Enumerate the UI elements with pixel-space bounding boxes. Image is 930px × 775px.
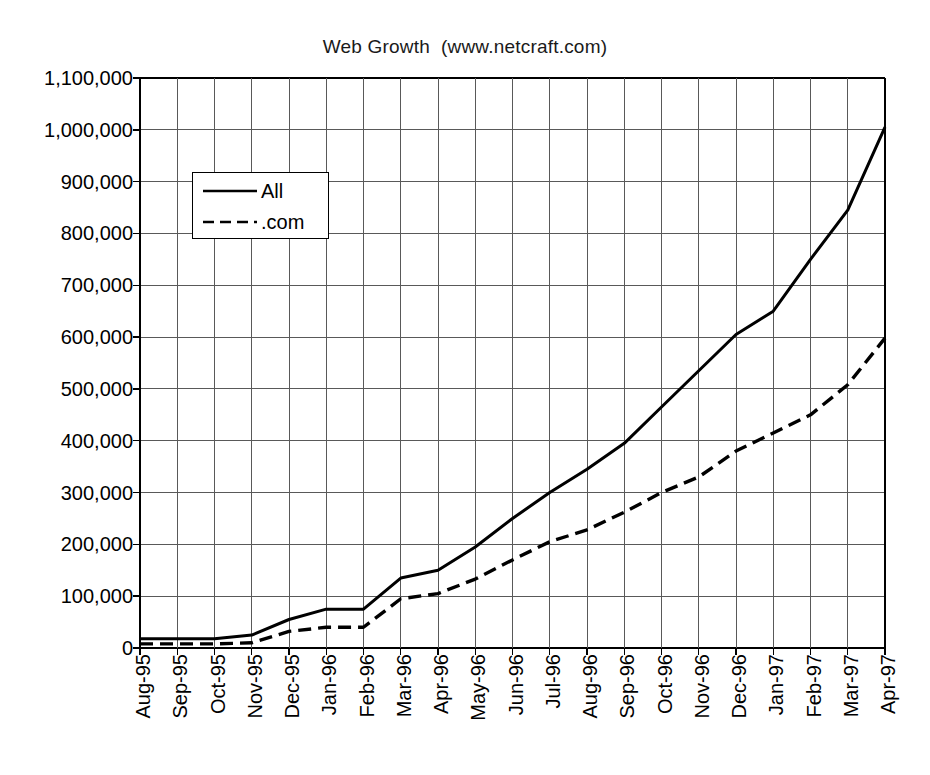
x-tick-label: Jan-97 <box>765 654 788 715</box>
x-tick-label: Feb-96 <box>356 654 379 717</box>
y-tick-label: 400,000 <box>5 429 133 452</box>
legend-item-com: .com <box>193 206 330 238</box>
plot-area <box>140 78 885 648</box>
y-tick-label: 300,000 <box>5 481 133 504</box>
y-tick-label: 100,000 <box>5 585 133 608</box>
y-tick-label: 800,000 <box>5 222 133 245</box>
x-tick-label: Feb-97 <box>803 654 826 717</box>
x-tick-label: Apr-96 <box>430 654 453 714</box>
y-tick-label: 1,100,000 <box>5 67 133 90</box>
legend: All .com <box>192 172 329 239</box>
x-tick-label: Sep-95 <box>169 654 192 719</box>
x-tick-label: May-96 <box>467 654 490 721</box>
y-tick-label: 900,000 <box>5 170 133 193</box>
y-tick-label: 0 <box>5 637 133 660</box>
legend-line-solid-icon <box>201 184 259 198</box>
y-tick-label: 500,000 <box>5 377 133 400</box>
x-tick-label: Nov-95 <box>244 654 267 718</box>
x-tick-label: Oct-96 <box>654 654 677 714</box>
x-tick-label: Mar-97 <box>840 654 863 717</box>
legend-label-com: .com <box>261 211 304 234</box>
x-tick-label: Jul-96 <box>542 654 565 708</box>
x-tick-label: Aug-95 <box>132 654 155 719</box>
x-tick-label: Sep-96 <box>616 654 639 719</box>
x-tick-label: Jun-96 <box>505 654 528 715</box>
x-tick-label: Nov-96 <box>691 654 714 718</box>
x-tick-label: Jan-96 <box>318 654 341 715</box>
y-tick-label: 1,000,000 <box>5 118 133 141</box>
x-tick-label: Apr-97 <box>877 654 900 714</box>
series-lines <box>140 78 885 648</box>
y-tick-label: 600,000 <box>5 326 133 349</box>
x-tick-label: Dec-96 <box>728 654 751 718</box>
y-tick-label: 200,000 <box>5 533 133 556</box>
legend-line-dashed-icon <box>201 215 259 229</box>
x-axis-tick-labels: Aug-95Sep-95Oct-95Nov-95Dec-95Jan-96Feb-… <box>140 648 885 775</box>
y-tick-label: 700,000 <box>5 274 133 297</box>
x-tick-label: Aug-96 <box>579 654 602 719</box>
series-line-1 <box>140 338 885 644</box>
x-tick-label: Dec-95 <box>281 654 304 718</box>
y-axis-tick-labels: 0100,000200,000300,000400,000500,000600,… <box>0 78 133 648</box>
web-growth-chart: Web Growth (www.netcraft.com) 0100,00020… <box>0 0 930 775</box>
x-tick-label: Oct-95 <box>207 654 230 714</box>
legend-item-all: All <box>193 175 330 207</box>
x-tick-label: Mar-96 <box>393 654 416 717</box>
legend-label-all: All <box>261 180 283 203</box>
chart-title: Web Growth (www.netcraft.com) <box>0 36 930 58</box>
